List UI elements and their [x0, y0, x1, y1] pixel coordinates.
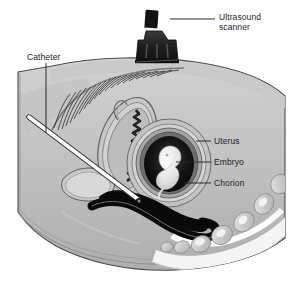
scanner-probe[interactable] [135, 10, 179, 64]
label-chorion: Chorion [214, 178, 244, 188]
label-uterus: Uterus [214, 136, 240, 146]
figure-canvas: Ultrasound scanner Catheter Uterus Embry… [0, 0, 305, 294]
label-ultrasound-scanner-line2: scanner [219, 22, 250, 32]
label-ultrasound-scanner-line1: Ultrasound [219, 12, 261, 22]
anatomy-illustration [0, 0, 305, 294]
label-ultrasound-scanner: Ultrasound scanner [219, 12, 283, 32]
label-embryo: Embryo [214, 157, 244, 167]
label-catheter: Catheter [27, 52, 60, 62]
